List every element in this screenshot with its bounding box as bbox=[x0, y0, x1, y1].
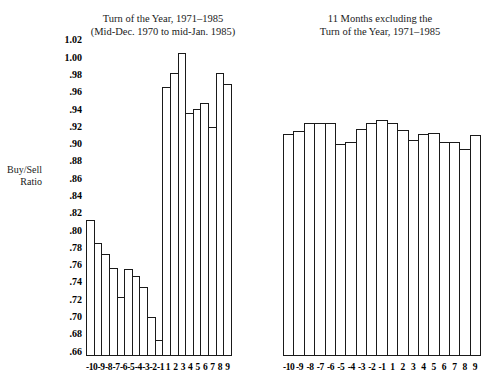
x-tick-label: -6 bbox=[325, 360, 335, 374]
x-tick-label: -2 bbox=[149, 360, 156, 374]
left-chart-title: Turn of the Year, 1971–1985 (Mid-Dec. 19… bbox=[88, 12, 238, 38]
y-tick-label: .70 bbox=[42, 312, 82, 322]
x-tick-label: -10 bbox=[283, 360, 294, 374]
x-tick-label: 6 bbox=[201, 360, 208, 374]
y-axis-label-line1: Buy/Sell bbox=[0, 164, 42, 176]
x-tick-label: -5 bbox=[336, 360, 346, 374]
x-tick-label: -8 bbox=[305, 360, 315, 374]
x-tick-label: -3 bbox=[356, 360, 366, 374]
right-chart-x-tick-labels: -10-9-8-7-6-5-4-3-2-1123456789 bbox=[283, 360, 480, 374]
x-tick-label: -4 bbox=[135, 360, 142, 374]
x-tick-label: 2 bbox=[172, 360, 179, 374]
x-tick-label: -9 bbox=[294, 360, 304, 374]
x-tick-label: 2 bbox=[398, 360, 408, 374]
right-chart-title-line1: 11 Months excluding the bbox=[285, 12, 475, 25]
y-axis-ticks: 1.021.00.98.96.94.92.90.88.86.84.82.80.7… bbox=[42, 18, 82, 358]
x-tick-label: 8 bbox=[459, 360, 469, 374]
figure-root: Turn of the Year, 1971–1985 (Mid-Dec. 19… bbox=[0, 0, 485, 386]
y-tick-label: .92 bbox=[42, 122, 82, 132]
x-tick-label: -2 bbox=[367, 360, 377, 374]
x-tick-label: -3 bbox=[142, 360, 149, 374]
y-tick-label: 1.00 bbox=[42, 53, 82, 63]
x-tick-label: -4 bbox=[346, 360, 356, 374]
left-chart-plot-area bbox=[86, 36, 231, 356]
x-tick-label: 8 bbox=[216, 360, 223, 374]
y-tick-label: .72 bbox=[42, 295, 82, 305]
x-tick-label: 9 bbox=[470, 360, 480, 374]
y-tick-label: .90 bbox=[42, 139, 82, 149]
y-tick-label: .98 bbox=[42, 70, 82, 80]
left-chart-title-line1: Turn of the Year, 1971–1985 bbox=[88, 12, 238, 25]
x-tick-label: -9 bbox=[97, 360, 104, 374]
x-tick-label: 4 bbox=[187, 360, 194, 374]
x-tick-label: 5 bbox=[194, 360, 201, 374]
y-axis-label-line2: Ratio bbox=[0, 176, 42, 188]
bar bbox=[470, 135, 481, 356]
x-tick-label: -7 bbox=[315, 360, 325, 374]
x-tick-label: -1 bbox=[377, 360, 387, 374]
x-tick-label: -8 bbox=[105, 360, 112, 374]
left-chart-bars bbox=[86, 36, 231, 356]
y-tick-label: .94 bbox=[42, 105, 82, 115]
x-tick-label: 6 bbox=[439, 360, 449, 374]
x-tick-label: 1 bbox=[164, 360, 171, 374]
right-chart-plot-area bbox=[283, 36, 480, 356]
x-tick-label: -1 bbox=[157, 360, 164, 374]
y-tick-label: .76 bbox=[42, 260, 82, 270]
x-tick-label: 7 bbox=[209, 360, 216, 374]
x-tick-label: 7 bbox=[449, 360, 459, 374]
x-tick-label: 3 bbox=[179, 360, 186, 374]
y-tick-label: .88 bbox=[42, 156, 82, 166]
x-tick-label: 4 bbox=[418, 360, 428, 374]
bar bbox=[223, 84, 232, 356]
right-chart-x-axis-line bbox=[283, 355, 480, 356]
y-tick-label: .74 bbox=[42, 277, 82, 287]
x-tick-label: -6 bbox=[120, 360, 127, 374]
x-tick-label: -5 bbox=[127, 360, 134, 374]
x-tick-label: 3 bbox=[408, 360, 418, 374]
x-tick-label: 5 bbox=[429, 360, 439, 374]
right-chart-bars bbox=[283, 36, 480, 356]
y-tick-label: .68 bbox=[42, 329, 82, 339]
y-tick-label: .66 bbox=[42, 347, 82, 357]
x-tick-label: -10 bbox=[86, 360, 97, 374]
y-tick-label: .96 bbox=[42, 87, 82, 97]
y-tick-label: 1.02 bbox=[42, 35, 82, 45]
y-tick-label: .82 bbox=[42, 208, 82, 218]
y-axis-label: Buy/Sell Ratio bbox=[0, 164, 42, 188]
left-chart-x-axis-line bbox=[86, 355, 231, 356]
x-tick-label: 1 bbox=[387, 360, 397, 374]
y-tick-label: .84 bbox=[42, 191, 82, 201]
right-chart-title: 11 Months excluding the Turn of the Year… bbox=[285, 12, 475, 38]
y-tick-label: .80 bbox=[42, 226, 82, 236]
x-tick-label: -7 bbox=[112, 360, 119, 374]
left-chart-x-tick-labels: -10-9-8-7-6-5-4-3-2-1123456789 bbox=[86, 360, 231, 374]
y-tick-label: .78 bbox=[42, 243, 82, 253]
x-tick-label: 9 bbox=[224, 360, 231, 374]
y-tick-label: .86 bbox=[42, 174, 82, 184]
